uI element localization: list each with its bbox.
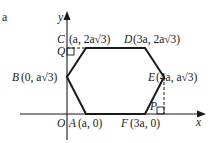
hexagon-coordinate-diagram: a y x O C (a, 2a√3) Q D (3a, 2a√3) B (0,…: [0, 0, 218, 143]
point-Q-label: Q: [57, 45, 66, 57]
point-D-coords: (3a, 2a√3): [133, 33, 180, 46]
origin-label: O: [57, 117, 66, 129]
right-angle-marker-Q: [67, 48, 74, 55]
point-C-label: C: [57, 33, 65, 45]
point-P-label: P: [149, 100, 157, 112]
part-label: a: [2, 10, 8, 24]
right-angle-marker-P: [157, 107, 164, 114]
point-D-label: D: [123, 33, 133, 45]
point-F-coords: (3a, 0): [130, 117, 160, 130]
point-B-label: B: [12, 71, 19, 83]
point-A-label: A: [68, 117, 77, 129]
y-axis-label: y: [57, 11, 64, 24]
point-E-label: E: [147, 71, 155, 83]
point-F-label: F: [120, 117, 129, 129]
point-A-coords: (a, 0): [78, 117, 102, 130]
y-axis-arrow-icon: [64, 11, 71, 20]
point-B-coords: (0, a√3): [21, 71, 57, 84]
point-C-coords: (a, 2a√3): [69, 33, 111, 46]
point-E-coords: (4a, a√3): [156, 71, 198, 84]
x-axis-label: x: [195, 116, 202, 128]
